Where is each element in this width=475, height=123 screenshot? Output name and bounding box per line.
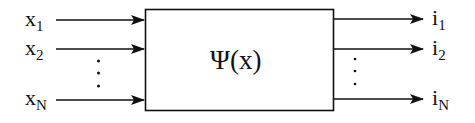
output-label-2: i2 [432,37,446,63]
input-ellipsis [97,60,100,88]
output-ellipsis [354,58,357,86]
input-label-1: x1 [25,8,44,34]
block-label: Ψ(x) [210,47,261,74]
output-label-1: i1 [432,7,446,33]
output-label-n: iN [432,87,449,113]
input-label-2: x2 [25,37,44,63]
input-label-n: xN [25,87,47,113]
